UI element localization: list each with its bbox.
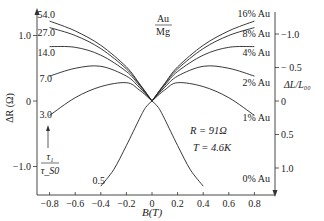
x-tick-label: −0.6 [66, 198, 84, 209]
series-line-2-au-left [50, 66, 152, 101]
left-y-ticks: 1.00−1.0 [13, 30, 37, 172]
x-tick-label: 0.2 [171, 198, 184, 209]
right-curve-label: 8% Au [243, 28, 271, 39]
left-curve-label: 7.0 [40, 73, 53, 84]
right-y-tick-label: 1.0 [281, 163, 294, 174]
inset-numerator: Au [157, 13, 169, 24]
left-y-tick-label: 1.0 [19, 30, 32, 41]
left-y-axis-label: ΔR (Ω) [4, 93, 16, 123]
x-tick-label: 0.4 [197, 198, 210, 209]
temperature-annotation: T = 4.6K [193, 142, 232, 153]
x-tick-label: 0.8 [248, 198, 261, 209]
series-line-8-au-right [152, 28, 254, 101]
right-curve-label: 2% Au [243, 77, 271, 88]
x-axis-label: B(T) [142, 206, 163, 219]
left-curve-label: 14.0 [38, 47, 56, 58]
right-axis-arrow-icon [273, 190, 278, 197]
right-y-tick-label: 0 [281, 96, 286, 107]
left-curve-label: 54.0 [38, 9, 56, 20]
x-tick-label: 0.6 [223, 198, 236, 209]
right-y-axis-label: ΔL/L₀₀ [283, 79, 311, 90]
right-curve-label: 4% Au [243, 47, 271, 58]
up-arrow-icon [46, 125, 50, 131]
left-curve-label: 27.0 [38, 27, 56, 38]
left-curve-label: 0.5 [93, 175, 106, 186]
tau-ratio-denominator: τ_S0 [41, 165, 60, 176]
chart: −0.8−0.6−0.4−0.200.20.40.60.8 1.00−1.0 −… [0, 0, 324, 221]
x-tick-label: −0.4 [92, 198, 110, 209]
inset-label: Au Mg [155, 13, 172, 37]
right-curve-label: 1% Au [243, 112, 271, 123]
left-curve-label: 3.0 [40, 109, 53, 120]
right-y-tick-label: − 0.5 [281, 62, 302, 73]
curves [50, 21, 255, 186]
left-y-tick-label: −1.0 [13, 161, 31, 172]
series-line-8-au-left [50, 28, 152, 101]
inset-denominator: Mg [156, 26, 170, 37]
series-line-2-au-right [152, 66, 254, 101]
resistance-annotation: R = 91Ω [189, 125, 227, 136]
right-curve-label: 0% Au [243, 173, 271, 184]
series-line-0-au-left [101, 101, 152, 186]
left-y-tick-label: 0 [26, 96, 31, 107]
x-tick-label: −0.2 [117, 198, 135, 209]
series-line-4-au-right [152, 46, 254, 101]
right-y-ticks: −1.0− 0.500.51.0 [275, 29, 302, 174]
tau-ratio-annotation: τ₁ τ_S0 [41, 125, 60, 176]
right-curve-label: 16% Au [238, 8, 271, 19]
series-line-1-au-left [50, 83, 152, 116]
series-line-1-au-right [152, 83, 254, 116]
right-y-tick-label: 0.5 [281, 129, 294, 140]
x-tick-label: −0.8 [41, 198, 59, 209]
tau-ratio-numerator: τ₁ [46, 151, 53, 162]
right-y-tick-label: −1.0 [281, 29, 299, 40]
series-line-16-au-left [50, 21, 152, 101]
series-line-4-au-left [50, 46, 152, 101]
